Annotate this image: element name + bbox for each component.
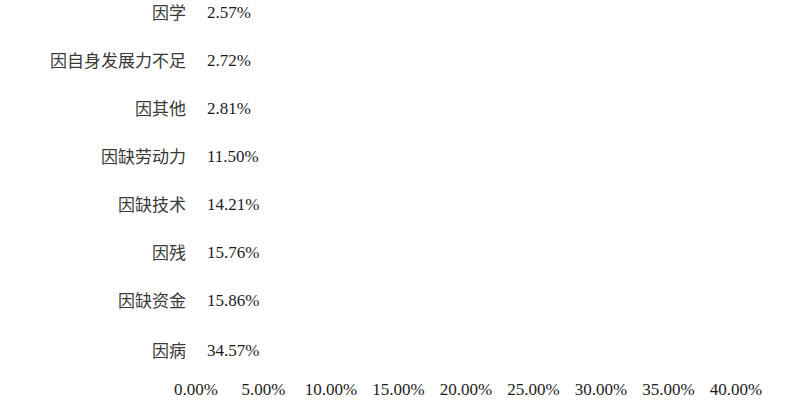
- category-label: 因缺劳动力: [0, 145, 186, 169]
- bar-row: 因缺劳动力 11.50%: [0, 145, 792, 169]
- bar-row: 因其他 2.81%: [0, 97, 792, 121]
- category-label: 因缺资金: [0, 289, 186, 313]
- bar-row: 因学 2.57%: [0, 1, 792, 25]
- bar-value-label: 11.50%: [200, 145, 259, 169]
- bar-value-label: 2.72%: [200, 49, 251, 73]
- bar-value-label: 15.76%: [200, 241, 259, 265]
- x-axis: 0.00% 5.00% 10.00% 15.00% 20.00% 25.00% …: [0, 378, 792, 402]
- x-tick-label: 10.00%: [305, 378, 357, 402]
- plot-area: 因学 2.57% 因自身发展力不足 2.72% 因其他 2.81% 因缺劳动力: [0, 0, 792, 375]
- bar-row: 因缺技术 14.21%: [0, 193, 792, 217]
- bar-row: 因病 34.57%: [0, 339, 792, 363]
- category-label: 因其他: [0, 97, 186, 121]
- x-tick-label: 0.00%: [174, 378, 218, 402]
- x-tick-label: 25.00%: [507, 378, 559, 402]
- bar-row: 因自身发展力不足 2.72%: [0, 49, 792, 73]
- bar-row: 因残 15.76%: [0, 241, 792, 265]
- category-label: 因学: [0, 1, 186, 25]
- x-tick-label: 35.00%: [642, 378, 694, 402]
- category-label: 因残: [0, 241, 186, 265]
- bar-value-label: 34.57%: [200, 339, 259, 363]
- bar-value-label: 15.86%: [200, 289, 259, 313]
- bar-value-label: 14.21%: [200, 193, 259, 217]
- x-tick-label: 30.00%: [575, 378, 627, 402]
- category-label: 因缺技术: [0, 193, 186, 217]
- x-tick-label: 40.00%: [710, 378, 762, 402]
- category-label: 因病: [0, 339, 186, 363]
- x-tick-label: 5.00%: [242, 378, 286, 402]
- bar-row: 因缺资金 15.86%: [0, 289, 792, 313]
- bar-value-label: 2.57%: [200, 1, 251, 25]
- bar-value-label: 2.81%: [200, 97, 251, 121]
- x-tick-label: 20.00%: [440, 378, 492, 402]
- bar-track: [196, 340, 663, 362]
- category-label: 因自身发展力不足: [0, 49, 186, 73]
- x-tick-label: 15.00%: [372, 378, 424, 402]
- horizontal-bar-chart: 因学 2.57% 因自身发展力不足 2.72% 因其他 2.81% 因缺劳动力: [0, 0, 792, 407]
